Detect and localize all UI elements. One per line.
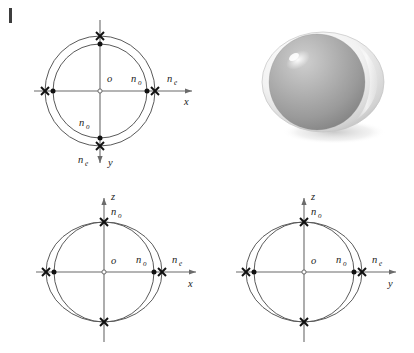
svg-text:e: e bbox=[179, 260, 183, 268]
svg-text:e: e bbox=[379, 260, 383, 268]
indicatrix-figure: o n o n e n o n e x y bbox=[0, 0, 414, 353]
svg-text:n: n bbox=[78, 154, 83, 165]
z-axis-arrowhead bbox=[301, 198, 306, 205]
y-axis-arrowhead bbox=[97, 156, 102, 163]
label-axis-x: x bbox=[183, 96, 189, 107]
panel-xz-section: o n o n e n o x z bbox=[18, 182, 214, 353]
svg-text:n: n bbox=[172, 254, 177, 265]
svg-text:o: o bbox=[86, 123, 90, 131]
origin-point bbox=[102, 270, 106, 274]
marker-dot-right bbox=[145, 89, 150, 94]
marker-dot-right bbox=[152, 270, 157, 275]
svg-text:n: n bbox=[136, 254, 141, 265]
svg-text:o: o bbox=[118, 212, 122, 220]
origin-point bbox=[302, 270, 306, 274]
label-origin: o bbox=[107, 73, 112, 84]
marker-dot-up bbox=[98, 42, 103, 47]
label-axis-y: y bbox=[107, 157, 113, 168]
label-ne-right: n e bbox=[167, 73, 178, 87]
svg-text:o: o bbox=[318, 212, 322, 220]
label-axis-z: z bbox=[110, 191, 115, 202]
origin-point bbox=[98, 89, 102, 93]
label-axis-y: y bbox=[387, 278, 393, 289]
panel-xy-section: o n o n e n o n e x y bbox=[0, 0, 210, 178]
svg-text:n: n bbox=[111, 206, 116, 217]
svg-text:n: n bbox=[336, 254, 341, 265]
label-no-right: n o bbox=[131, 73, 142, 87]
svg-text:n: n bbox=[167, 73, 172, 84]
label-no-up: n o bbox=[311, 206, 322, 220]
label-no-up: n o bbox=[111, 206, 122, 220]
label-no-right: n o bbox=[136, 254, 147, 268]
svg-text:n: n bbox=[131, 73, 136, 84]
marker-dot-left bbox=[252, 270, 257, 275]
inner-sphere bbox=[269, 34, 365, 130]
marker-dot-right bbox=[352, 270, 357, 275]
label-axis-z: z bbox=[310, 191, 315, 202]
svg-text:n: n bbox=[372, 254, 377, 265]
svg-text:e: e bbox=[85, 160, 89, 168]
label-no-down: n o bbox=[79, 117, 90, 131]
label-ne-right: n e bbox=[172, 254, 183, 268]
x-axis-arrowhead bbox=[185, 88, 192, 93]
xy-section-svg: o n o n e n o n e x y bbox=[0, 0, 210, 178]
label-origin: o bbox=[111, 255, 116, 266]
indicatrix-3d-svg bbox=[252, 24, 402, 152]
marker-dot-left bbox=[52, 270, 57, 275]
label-ne-down: n e bbox=[78, 154, 89, 168]
x-axis-arrowhead bbox=[189, 269, 196, 274]
svg-text:n: n bbox=[79, 117, 84, 128]
svg-text:o: o bbox=[138, 79, 142, 87]
label-no-right: n o bbox=[336, 254, 347, 268]
svg-text:e: e bbox=[174, 79, 178, 87]
y-axis-arrowhead bbox=[389, 269, 396, 274]
z-axis-arrowhead bbox=[101, 198, 106, 205]
label-axis-x: x bbox=[187, 278, 193, 289]
svg-text:o: o bbox=[343, 260, 347, 268]
yz-section-svg: o n o n e n o y z bbox=[218, 182, 414, 353]
marker-dot-down bbox=[98, 136, 103, 141]
xz-section-svg: o n o n e n o x z bbox=[18, 182, 214, 353]
label-origin: o bbox=[311, 255, 316, 266]
svg-text:o: o bbox=[143, 260, 147, 268]
label-ne-right: n e bbox=[372, 254, 383, 268]
marker-dot-left bbox=[51, 89, 56, 94]
svg-text:n: n bbox=[311, 206, 316, 217]
panel-yz-section: o n o n e n o y z bbox=[218, 182, 414, 353]
panel-indicatrix-3d bbox=[252, 24, 402, 152]
